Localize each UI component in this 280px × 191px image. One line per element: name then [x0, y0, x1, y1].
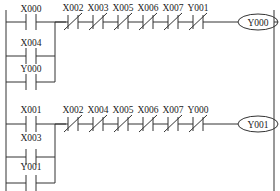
- coil-label: Y000: [247, 18, 268, 28]
- contact-label: X005: [112, 105, 133, 115]
- nc-contact-icon: X002: [62, 105, 83, 132]
- rung-1: X000 X004 Y000 X002 X003 X005: [6, 3, 278, 90]
- no-contact-icon: Y000: [20, 64, 41, 90]
- nc-contact-icon: X006: [137, 105, 158, 132]
- rung-2: X001 X003 Y001 X002 X004 X005: [6, 105, 278, 191]
- no-contact-icon: X001: [20, 105, 41, 132]
- no-contact-icon: X004: [20, 38, 41, 64]
- nc-contact-icon: X007: [162, 105, 183, 132]
- contact-label: X006: [137, 3, 158, 13]
- contact-label: X005: [112, 3, 133, 13]
- contact-label: X004: [20, 38, 41, 48]
- nc-contact-icon: X006: [137, 3, 158, 30]
- nc-contact-icon: Y000: [187, 105, 208, 132]
- nc-contact-icon: X003: [87, 3, 108, 30]
- nc-contact-icon: X005: [112, 105, 133, 132]
- contact-label: X007: [162, 3, 183, 13]
- nc-contact-icon: X002: [62, 3, 83, 30]
- nc-contact-icon: Y001: [187, 3, 208, 30]
- contact-label: X000: [20, 4, 41, 14]
- no-contact-icon: Y001: [20, 162, 41, 191]
- contact-label: X006: [137, 105, 158, 115]
- contact-label: Y000: [187, 105, 208, 115]
- contact-label: Y000: [20, 64, 41, 74]
- contact-label: X003: [20, 133, 41, 143]
- nc-contact-icon: X007: [162, 3, 183, 30]
- output-coil-icon: Y001: [238, 116, 278, 132]
- coil-label: Y001: [247, 120, 268, 130]
- contact-label: X002: [62, 105, 83, 115]
- no-contact-icon: X003: [20, 133, 41, 165]
- contact-label: X002: [62, 3, 83, 13]
- output-coil-icon: Y000: [238, 14, 278, 30]
- no-contact-icon: X000: [20, 4, 41, 30]
- ladder-diagram: X000 X004 Y000 X002 X003 X005: [0, 0, 280, 191]
- nc-contact-icon: X004: [87, 105, 108, 132]
- contact-label: X007: [162, 105, 183, 115]
- nc-contact-icon: X005: [112, 3, 133, 30]
- contact-label: X004: [87, 105, 108, 115]
- contact-label: X001: [20, 105, 41, 115]
- contact-label: X003: [87, 3, 108, 13]
- contact-label: Y001: [20, 162, 41, 172]
- contact-label: Y001: [187, 3, 208, 13]
